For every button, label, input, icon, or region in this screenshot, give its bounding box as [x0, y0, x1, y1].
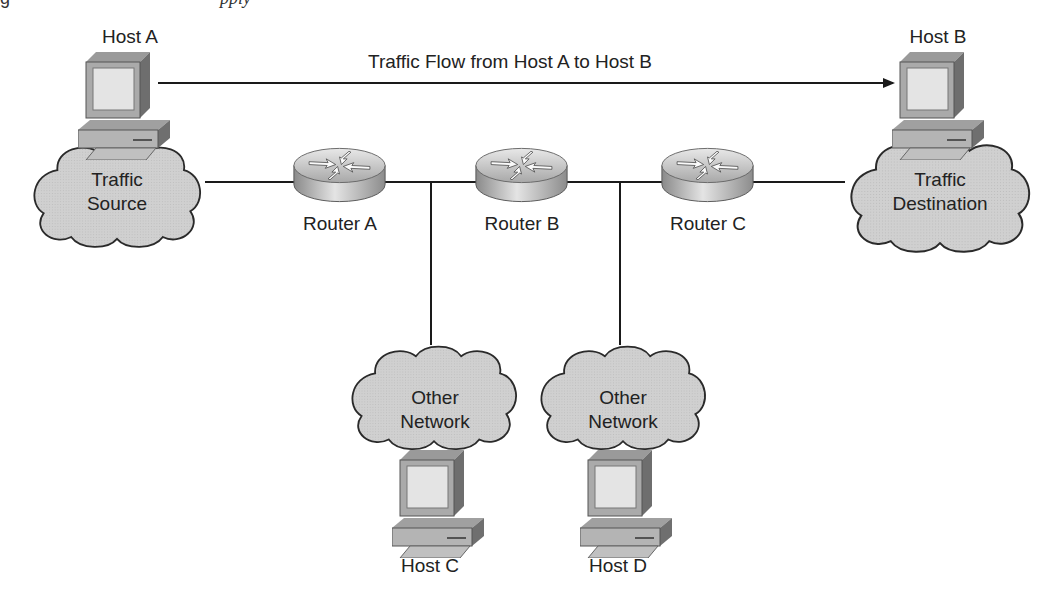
traffic-flow-label: Traffic Flow from Host A to Host B — [368, 51, 652, 73]
host-c-label: Host C — [395, 555, 465, 577]
network-diagram: gpply — [0, 0, 1057, 589]
traffic-destination-label: Traffic Destination — [880, 168, 1000, 216]
host-b-label: Host B — [903, 26, 973, 48]
cloud-label-line: Traffic — [880, 168, 1000, 192]
cloud-label-line: Network — [385, 410, 485, 434]
other-network-2-label: Other Network — [573, 386, 673, 434]
host-a-pc-icon — [78, 52, 170, 160]
host-a-label: Host A — [95, 26, 165, 48]
other-network-1-label: Other Network — [385, 386, 485, 434]
router-b-label: Router B — [472, 213, 572, 235]
host-b-pc-icon — [892, 52, 984, 160]
router-a-label: Router A — [290, 213, 390, 235]
traffic-source-label: Traffic Source — [62, 168, 172, 216]
host-d-pc-icon — [580, 450, 672, 558]
router-b-icon — [476, 148, 567, 201]
cloud-label-line: Traffic — [62, 168, 172, 192]
router-c-icon — [662, 148, 753, 201]
router-a-icon — [294, 148, 385, 201]
cloud-label-line: Network — [573, 410, 673, 434]
host-c-pc-icon — [392, 450, 484, 558]
network-links — [205, 182, 845, 345]
host-d-label: Host D — [583, 555, 653, 577]
cloud-label-line: Source — [62, 192, 172, 216]
diagram-canvas — [0, 0, 1057, 589]
cloud-label-line: Other — [385, 386, 485, 410]
cloud-label-line: Destination — [880, 192, 1000, 216]
cloud-label-line: Other — [573, 386, 673, 410]
router-c-label: Router C — [658, 213, 758, 235]
